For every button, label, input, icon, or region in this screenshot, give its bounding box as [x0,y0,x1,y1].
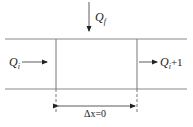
label-q-f: Qf [95,10,108,26]
label-q-i-plus-1: Qi+1 [160,55,183,71]
label-delta-x: Δx=0 [84,108,106,119]
label-q-i: Qi [9,55,20,71]
flow-diagram: Qf Qi Qi+1 Δx=0 [0,0,193,127]
